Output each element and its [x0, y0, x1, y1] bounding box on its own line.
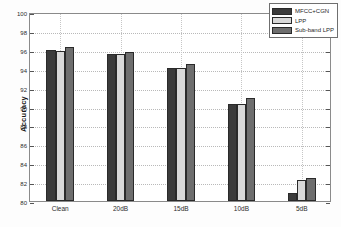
y-axis-tick-mark	[30, 90, 34, 91]
legend-item-label: MFCC+CGN	[295, 8, 329, 14]
y-axis-tick-mark	[326, 203, 330, 204]
y-axis-tick-mark	[30, 71, 34, 72]
y-axis-tick-mark	[30, 146, 34, 147]
x-axis-tick-label: 15dB	[173, 206, 188, 213]
bar	[306, 178, 315, 201]
y-axis-tick-label: 84	[20, 162, 27, 168]
y-axis-tick-label: 86	[20, 143, 27, 149]
y-axis-tick-mark	[326, 71, 330, 72]
legend-swatch-icon	[272, 17, 292, 24]
bar	[125, 52, 134, 201]
y-axis-tick-mark	[30, 184, 34, 185]
y-axis-tick-mark	[326, 146, 330, 147]
y-axis-tick-mark	[30, 33, 34, 34]
bar	[246, 98, 255, 201]
legend-item[interactable]: Sub-band LPP	[272, 26, 334, 35]
bar	[167, 68, 176, 201]
y-axis-tick-mark	[326, 109, 330, 110]
x-axis-tick-label: Clean	[52, 206, 69, 213]
gridline	[30, 52, 330, 53]
legend-item[interactable]: MFCC+CGN	[272, 7, 334, 16]
y-axis-tick-label: 98	[20, 30, 27, 36]
y-axis-tick-label: 80	[20, 200, 27, 206]
y-axis-tick-mark	[30, 127, 34, 128]
bar	[297, 180, 306, 201]
bar	[116, 54, 125, 201]
bar	[288, 193, 297, 202]
x-axis-tick-label: 5dB	[296, 206, 308, 213]
y-axis-tick-mark	[30, 109, 34, 110]
legend-item-label: LPP	[295, 18, 306, 24]
y-axis-tick-label: 92	[20, 87, 27, 93]
vertical-gridline	[302, 14, 303, 201]
y-axis-tick-mark	[326, 127, 330, 128]
bar	[46, 50, 55, 201]
y-axis-tick-label: 88	[20, 124, 27, 130]
bar	[237, 104, 246, 201]
y-axis-tick-mark	[326, 52, 330, 53]
plot-area: 80828486889092949698100 Clean20dB15dB10d…	[29, 13, 331, 202]
bar-chart-figure: Accuracy 80828486889092949698100 Clean20…	[0, 0, 341, 227]
legend-item-label: Sub-band LPP	[295, 27, 334, 33]
bar	[107, 54, 116, 201]
y-axis-tick-label: 100	[17, 11, 27, 17]
y-axis-tick-mark	[326, 184, 330, 185]
y-axis-tick-mark	[326, 165, 330, 166]
bar	[228, 104, 237, 201]
y-axis-tick-mark	[30, 203, 34, 204]
y-axis-tick-mark	[326, 90, 330, 91]
y-axis-tick-mark	[30, 165, 34, 166]
legend-swatch-icon	[272, 8, 292, 15]
legend-item[interactable]: LPP	[272, 16, 334, 25]
y-axis-tick-label: 90	[20, 106, 27, 112]
bar	[186, 64, 195, 201]
y-axis-tick-label: 94	[20, 68, 27, 74]
y-axis-tick-label: 96	[20, 49, 27, 55]
y-axis-tick-mark	[30, 14, 34, 15]
bar	[56, 51, 65, 201]
legend-swatch-icon	[272, 27, 292, 34]
bar	[65, 47, 74, 201]
bar	[176, 68, 185, 201]
x-axis-tick-label: 10dB	[234, 206, 249, 213]
x-axis-tick-label: 20dB	[113, 206, 128, 213]
chart-legend: MFCC+CGNLPPSub-band LPP	[269, 3, 338, 38]
y-axis-tick-label: 82	[20, 181, 27, 187]
y-axis-tick-mark	[30, 52, 34, 53]
